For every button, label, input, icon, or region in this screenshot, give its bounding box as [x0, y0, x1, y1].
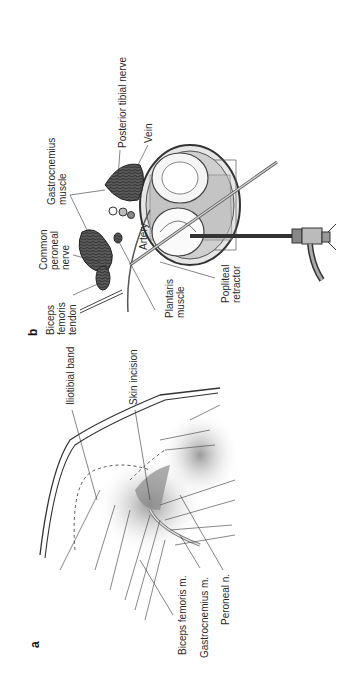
label-common-peroneal-nerve: Common peroneal nerve — [38, 229, 71, 270]
label-plantaris-muscle: Plantaris muscle — [164, 279, 186, 318]
label-iliotibial-band: Iliotibial band — [65, 347, 76, 405]
label-artery: Artery — [138, 223, 149, 250]
label-biceps-femoris-tendon: Biceps femoris tendon — [45, 302, 78, 335]
label-peroneal-n: Peroneal n. — [220, 574, 231, 625]
label-popliteal-retractor: Popliteal retractor — [220, 265, 242, 303]
panel-a-drawing — [40, 388, 240, 620]
label-biceps-femoris-m: Biceps femoris m. — [177, 576, 188, 655]
label-gastrocnemius-muscle: Gastrocnemius muscle — [46, 138, 68, 205]
panel-a-letter: a — [28, 641, 42, 648]
label-vein: Vein — [143, 124, 154, 143]
label-skin-incision: Skin incision — [128, 349, 139, 405]
anatomical-illustration — [0, 0, 344, 678]
label-posterior-tibial-nerve: Posterior tibial nerve — [117, 57, 128, 148]
panel-b-letter: b — [26, 329, 40, 336]
label-gastrocnemius-m: Gastrocnemius m. — [199, 577, 210, 658]
panel-b-drawing — [70, 145, 336, 313]
